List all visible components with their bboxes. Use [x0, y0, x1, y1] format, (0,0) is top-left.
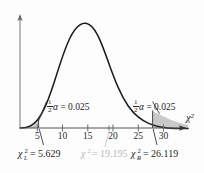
left-alpha-value: 0.025: [68, 102, 89, 112]
right-critical-value-label: χ 2 R = 26.119: [131, 148, 178, 160]
left-alpha-annotation: 1 2 α = 0.025: [47, 99, 89, 114]
x-axis-label: χ²: [186, 112, 194, 123]
xtick-label-10: 10: [53, 131, 73, 141]
statistic-chi-superscript: 2: [88, 145, 91, 157]
right-alpha-symbol: α: [139, 102, 144, 112]
left-alpha-fraction: 1 2: [47, 99, 53, 114]
left-annotation-leader-line: [39, 102, 47, 121]
statistic-equals-value: = 19.195: [92, 148, 128, 159]
statistic-chi-symbol: χ: [81, 148, 85, 159]
xtick-label-25: 25: [128, 131, 148, 141]
right-alpha-fraction: 1 2: [133, 99, 139, 114]
chi-square-distribution-figure: 5 10 15 20 25 30 χ² 1 2 α = 0.025 1 2 α …: [0, 0, 204, 173]
left-critical-value-label: χ 2 L = 5.629: [18, 148, 61, 160]
left-critical-equals-value: = 5.629: [30, 148, 61, 159]
left-critical-chi-subscript: L: [24, 152, 28, 164]
right-alpha-value: 0.025: [154, 102, 175, 112]
right-alpha-fraction-denominator: 2: [133, 107, 139, 114]
left-alpha-symbol: α: [53, 102, 58, 112]
left-critical-chi-symbol: χ: [18, 148, 22, 159]
chi-square-statistic-label: χ 2 = 19.195: [81, 148, 128, 160]
right-critical-chi-subscript: R: [137, 152, 141, 164]
left-alpha-fraction-denominator: 2: [47, 107, 53, 114]
chi-square-statistic-marker: [108, 125, 111, 131]
statistic-chi-term: χ 2: [81, 148, 85, 160]
right-critical-chi-symbol: χ: [131, 148, 135, 159]
xtick-label-15: 15: [78, 131, 98, 141]
right-alpha-equals: =: [146, 102, 151, 112]
xtick-label-20: 20: [103, 131, 123, 141]
left-alpha-equals: =: [60, 102, 65, 112]
right-critical-chi-term: χ 2 R: [131, 148, 135, 160]
xtick-label-5: 5: [27, 131, 47, 141]
right-alpha-annotation: 1 2 α = 0.025: [133, 99, 175, 114]
left-critical-chi-term: χ 2 L: [18, 148, 22, 160]
right-critical-equals-value: = 26.119: [143, 148, 178, 159]
xtick-label-30: 30: [154, 131, 174, 141]
x-axis-chi-symbol: χ²: [186, 112, 194, 123]
